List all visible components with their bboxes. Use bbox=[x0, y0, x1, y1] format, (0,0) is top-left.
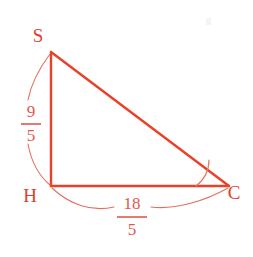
measure-arc-sh-lower bbox=[28, 144, 50, 185]
measure-arc-hc-left bbox=[52, 188, 114, 209]
measure-sh-denominator: 5 bbox=[27, 126, 36, 145]
vertex-label-h: H bbox=[23, 185, 37, 206]
measure-arc-sh-upper bbox=[28, 54, 50, 100]
vertex-label-s: S bbox=[33, 25, 44, 46]
vertex-label-c: C bbox=[228, 182, 241, 203]
geometry-figure: S H C 9 5 18 5 bbox=[0, 0, 253, 257]
measure-sh-numerator: 9 bbox=[27, 102, 36, 121]
triangle-side-sc-hypotenuse bbox=[51, 52, 229, 186]
measure-hc-denominator: 5 bbox=[128, 220, 137, 239]
measure-arc-hc-right bbox=[151, 188, 228, 208]
scan-artifact bbox=[206, 18, 211, 25]
geometry-diagram-canvas: S H C 9 5 18 5 bbox=[0, 0, 253, 257]
measure-hc-numerator: 18 bbox=[124, 194, 141, 213]
